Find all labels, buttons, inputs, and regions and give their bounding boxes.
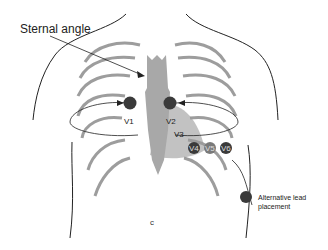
arrow-head-icon: [178, 100, 185, 106]
legend-text: Alternative lead placement: [258, 193, 318, 211]
lead-v4: V4: [188, 142, 200, 154]
alt-lead-v2r: [164, 97, 177, 110]
svg-text:V6: V6: [221, 144, 231, 153]
svg-text:V5: V5: [205, 144, 215, 153]
sternal-angle-label: Sternal angle: [20, 22, 91, 36]
alt-lead-v1r: [124, 97, 137, 110]
arrow-head-icon: [137, 71, 145, 78]
navel-mark: c: [150, 218, 154, 227]
svg-text:V4: V4: [189, 144, 199, 153]
lead-v6: V6: [220, 142, 232, 154]
lead-v5: V5: [204, 142, 216, 154]
lead-label-v2: V2: [166, 117, 176, 126]
lead-label-v1: V1: [124, 117, 134, 126]
legend-marker: [240, 191, 252, 203]
ecg-lead-placement-diagram: V1 V2 V3 V4 V5 V6 c: [0, 0, 328, 250]
lead-label-v3: V3: [174, 130, 184, 139]
arrow-head-icon: [117, 100, 124, 106]
